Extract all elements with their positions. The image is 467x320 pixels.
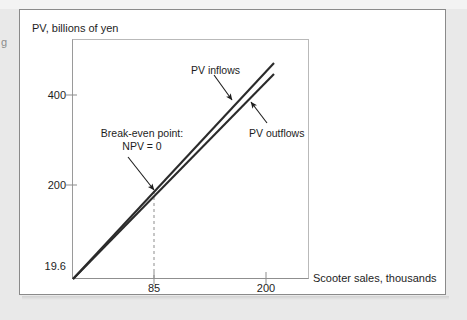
figure-box: PV, billions of yen Scooter sales, thous… <box>19 9 446 295</box>
series-line-pv-outflows <box>73 74 274 279</box>
chart-area: PV, billions of yen Scooter sales, thous… <box>20 10 447 294</box>
annotation-arrow-pv-inflows <box>214 75 232 100</box>
chart-vector-layer <box>20 10 447 294</box>
page-top-margin <box>0 0 467 9</box>
annotation-arrow-pv-outflows <box>251 102 267 123</box>
figure-shadow <box>22 296 449 300</box>
series-line-pv-inflows <box>73 63 274 279</box>
annotation-arrow-break-even <box>128 157 154 190</box>
page-text-fragment: g <box>1 36 7 48</box>
